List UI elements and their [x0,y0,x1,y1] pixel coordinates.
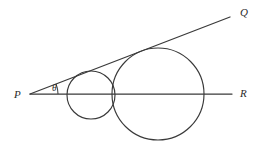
vertex-label-p: P [13,88,21,100]
ray-label-q: Q [240,6,248,18]
angle-label-theta: θ [52,83,57,93]
geometry-figure: P Q R θ [0,0,262,155]
geometry-canvas: P Q R θ [0,0,262,155]
small-circle [67,71,115,119]
ray-label-r: R [239,87,247,99]
ray-pq-line [30,17,230,94]
